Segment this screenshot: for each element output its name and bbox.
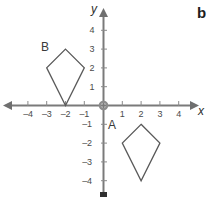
y-tick-label-3: 3 [84, 45, 100, 54]
y-axis-label: y [91, 3, 97, 15]
y-tick-label--1: –1 [79, 120, 95, 129]
y-tick-label--3: –3 [79, 158, 95, 167]
shape-a-label: A [108, 119, 116, 131]
shape-b-kite [47, 49, 85, 105]
coordinate-plane-graphic [0, 0, 209, 199]
y-axis-bottom-cap [100, 192, 107, 197]
corner-text-mark: b [197, 5, 206, 20]
y-tick-label--2: –2 [79, 139, 95, 148]
y-tick-label-1: 1 [84, 83, 100, 92]
x-tick-label--1: –1 [76, 110, 92, 119]
x-tick-label--4: –4 [20, 110, 36, 119]
x-tick-label--3: –3 [39, 110, 55, 119]
shape-b-label: B [41, 41, 49, 53]
y-tick-label-2: 2 [84, 64, 100, 73]
x-tick-label--2: –2 [58, 110, 74, 119]
y-tick-label--4: –4 [79, 177, 95, 186]
x-tick-label-3: 3 [152, 110, 168, 119]
y-tick-label-4: 4 [84, 26, 100, 35]
x-tick-label-4: 4 [171, 110, 187, 119]
x-tick-label-2: 2 [133, 110, 149, 119]
coordinate-plane-figure: –4 –3 –2 –1 1 2 3 4 1 2 3 4 –1 –2 –3 –4 … [0, 0, 209, 199]
y-axis-up-arrow-icon [99, 8, 108, 17]
shape-a-kite [122, 124, 160, 180]
x-axis-label: x [198, 105, 204, 117]
x-axis-left-arrow-icon [3, 101, 12, 110]
x-tick-label-1: 1 [114, 110, 130, 119]
